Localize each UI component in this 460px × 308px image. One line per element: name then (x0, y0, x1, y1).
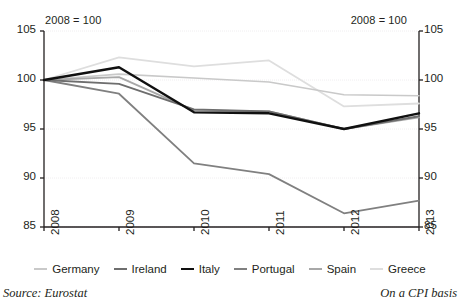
legend-label: Ireland (132, 263, 167, 275)
legend-item-spain[interactable]: Spain (309, 263, 356, 275)
legend-item-portugal[interactable]: Portugal (234, 263, 295, 275)
legend-item-italy[interactable]: Italy (181, 263, 220, 275)
y-axis-tick-label-left: 85 (8, 219, 36, 231)
source-note: Source: Eurostat (3, 286, 87, 301)
line-chart (0, 0, 460, 262)
legend-label: Spain (327, 263, 356, 275)
legend-label: Greece (388, 263, 426, 275)
legend-swatch-icon (234, 268, 247, 270)
legend-swatch-icon (309, 268, 322, 270)
y-axis-tick-label-right: 90 (424, 170, 452, 182)
legend-swatch-icon (34, 268, 47, 270)
x-axis-tick-label: 2008 (49, 209, 61, 235)
series-line-spain (44, 77, 419, 129)
legend-item-greece[interactable]: Greece (370, 263, 426, 275)
x-axis-tick-label: 2013 (424, 209, 436, 235)
legend-swatch-icon (370, 268, 383, 270)
legend-swatch-icon (181, 268, 194, 270)
legend-label: Germany (52, 263, 99, 275)
x-axis-tick-label: 2011 (274, 210, 286, 235)
legend-label: Italy (199, 263, 220, 275)
series-line-portugal (44, 80, 419, 213)
y-axis-tick-label-left: 105 (8, 23, 36, 35)
basis-note: On a CPI basis (380, 286, 457, 301)
y-axis-tick-label-left: 90 (8, 170, 36, 182)
chart-footer: Source: Eurostat On a CPI basis (0, 286, 460, 306)
legend-label: Portugal (252, 263, 295, 275)
series-line-ireland (44, 80, 419, 129)
legend-item-germany[interactable]: Germany (34, 263, 99, 275)
chart-canvas (0, 0, 460, 262)
x-axis-tick-label: 2012 (349, 209, 361, 235)
chart-root: 2008 = 100 2008 = 100 GermanyIrelandItal… (0, 0, 460, 308)
series-line-italy (44, 67, 419, 129)
y-axis-tick-label-right: 95 (424, 121, 452, 133)
y-axis-tick-label-right: 100 (424, 72, 452, 84)
x-axis-tick-label: 2009 (124, 209, 136, 235)
legend-swatch-icon (114, 268, 127, 270)
chart-legend: GermanyIrelandItalyPortugalSpainGreece (0, 258, 460, 280)
legend-item-ireland[interactable]: Ireland (114, 263, 167, 275)
y-axis-tick-label-left: 100 (8, 72, 36, 84)
y-axis-tick-label-right: 105 (424, 23, 452, 35)
x-axis-tick-label: 2010 (199, 209, 211, 235)
y-axis-tick-label-left: 95 (8, 121, 36, 133)
series-line-greece (44, 57, 419, 106)
